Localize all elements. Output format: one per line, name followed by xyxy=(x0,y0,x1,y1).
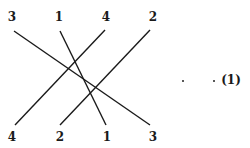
line-3 xyxy=(14,31,150,125)
leader-dot xyxy=(182,80,184,82)
connection-lines xyxy=(0,0,250,148)
bottom-label-2: 2 xyxy=(56,131,64,143)
line-4 xyxy=(15,30,105,125)
line-2 xyxy=(60,30,150,125)
bottom-label-4: 3 xyxy=(149,131,157,143)
bottom-label-3: 1 xyxy=(103,131,111,143)
bottom-label-1: 4 xyxy=(8,131,16,143)
equation-number: (1) xyxy=(221,74,241,86)
line-1 xyxy=(60,31,106,125)
leader-dot xyxy=(213,80,215,82)
